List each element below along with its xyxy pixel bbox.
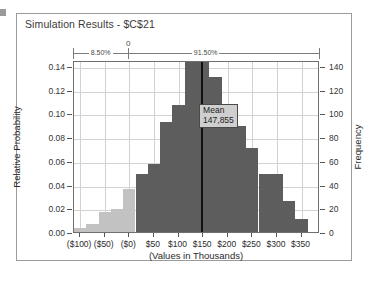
histogram-bar[interactable] (259, 174, 271, 232)
y-axis-tick-mark-left (67, 114, 72, 115)
y-axis-tick-mark-left (67, 67, 72, 68)
x-axis-tick-label: ($0) (121, 239, 136, 249)
y-axis-tick-label-left: 0.02 (48, 205, 65, 213)
y-axis-tick-label-left: 0.06 (48, 158, 65, 166)
y-axis-tick-label-right: 20 (329, 205, 338, 213)
histogram-bar[interactable] (234, 126, 246, 232)
x-axis-tick-mark (202, 233, 203, 237)
y-axis-tick-mark-right (320, 233, 325, 234)
histogram-plot-area[interactable]: Mean147,855 (73, 61, 319, 233)
y-axis-tick-mark-right (320, 67, 325, 68)
x-axis-tick-label: $350 (291, 239, 310, 249)
y-axis-frequency: Frequency 020406080100120140 (319, 61, 353, 233)
y-axis-tick-label-right: 60 (329, 158, 338, 166)
y-axis-tick-mark-right (320, 162, 325, 163)
certainty-grabber-zero[interactable] (128, 48, 129, 59)
histogram-bar[interactable] (295, 219, 307, 232)
x-axis-tick-mark (104, 233, 105, 237)
y-axis-tick-mark-right (320, 91, 325, 92)
y-axis-tick-label-left: 0.12 (48, 87, 65, 95)
y-axis-tick-label-left: 0.14 (48, 63, 65, 71)
y-axis-tick-mark-left (67, 233, 72, 234)
y-axis-label-left: Relative Probability (11, 106, 22, 187)
histogram-bar[interactable] (209, 77, 221, 232)
mean-value-callout[interactable]: Mean147,855 (199, 104, 238, 128)
x-axis-tick-label: ($100) (67, 239, 92, 249)
y-axis-tick-mark-left (67, 162, 72, 163)
certainty-left-percent-label: 8.50% (89, 48, 113, 58)
histogram-bar[interactable] (86, 224, 98, 232)
grid-line-vertical (80, 62, 81, 232)
y-axis-tick-label-right: 80 (329, 134, 338, 142)
x-axis-tick-label: $250 (242, 239, 261, 249)
x-axis-tick-mark (276, 233, 277, 237)
scan-artifact (0, 9, 6, 16)
y-axis-tick-label-right: 0 (329, 229, 334, 237)
simulation-results-chart-window: Simulation Results - $C$21 08.50%91.50% … (16, 13, 352, 261)
x-axis-tick-mark (301, 233, 302, 237)
histogram-bar[interactable] (172, 105, 184, 232)
y-axis-label-right: Frequency (352, 125, 363, 170)
histogram-bar[interactable] (111, 209, 123, 232)
histogram-bar[interactable] (148, 164, 160, 232)
histogram-bar[interactable] (283, 201, 295, 232)
histogram-bar[interactable] (74, 228, 86, 232)
x-axis-tick-mark (227, 233, 228, 237)
y-axis-tick-mark-right (320, 186, 325, 187)
x-axis-tick-mark (79, 233, 80, 237)
screenshot-root: Simulation Results - $C$21 08.50%91.50% … (0, 0, 370, 285)
y-axis-relative-probability: Relative Probability 0.000.020.040.060.0… (17, 61, 73, 233)
x-axis-tick-label: ($50) (94, 239, 114, 249)
y-axis-tick-mark-left (67, 138, 72, 139)
histogram-bar[interactable] (160, 122, 172, 232)
x-axis-tick-mark (178, 233, 179, 237)
mean-line[interactable] (201, 62, 203, 232)
histogram-bar[interactable] (246, 148, 258, 232)
x-axis-tick-label: $200 (217, 239, 236, 249)
y-axis-tick-mark-left (67, 91, 72, 92)
certainty-right-percent-label: 91.50% (192, 48, 220, 58)
certainty-zero-label: 0 (126, 39, 130, 48)
y-axis-tick-label-right: 120 (329, 87, 343, 95)
x-axis-tick-mark (251, 233, 252, 237)
y-axis-tick-mark-right (320, 114, 325, 115)
y-axis-tick-label-left: 0.00 (48, 229, 65, 237)
histogram-bar[interactable] (136, 174, 148, 232)
y-axis-tick-label-left: 0.08 (48, 134, 65, 142)
histogram-bar[interactable] (99, 212, 111, 232)
mean-callout-value: 147,855 (203, 116, 234, 126)
grid-line-vertical (105, 62, 106, 232)
x-axis-tick-label: $300 (266, 239, 285, 249)
y-axis-tick-label-right: 100 (329, 110, 343, 118)
x-axis-tick-mark (153, 233, 154, 237)
histogram-bar[interactable] (197, 61, 209, 232)
y-axis-tick-mark-left (67, 209, 72, 210)
certainty-endpoint[interactable] (73, 48, 74, 59)
y-axis-tick-mark-right (320, 209, 325, 210)
x-axis-tick-label: $50 (146, 239, 160, 249)
histogram-bar[interactable] (185, 61, 197, 232)
certainty-endpoint[interactable] (319, 48, 320, 59)
y-axis-tick-label-left: 0.10 (48, 110, 65, 118)
chart-title: Simulation Results - $C$21 (25, 18, 155, 30)
x-axis-tick-label: $100 (168, 239, 187, 249)
y-axis-tick-label-right: 140 (329, 63, 343, 71)
x-axis-tick-label: $150 (193, 239, 212, 249)
y-axis-tick-mark-left (67, 186, 72, 187)
histogram-bar[interactable] (271, 174, 283, 232)
x-axis-tick-mark (128, 233, 129, 237)
x-axis-label: (Values in Thousands) (73, 250, 319, 261)
certainty-band[interactable]: 08.50%91.50% (17, 40, 353, 60)
histogram-bar[interactable] (123, 189, 135, 232)
grid-line-vertical (302, 62, 303, 232)
y-axis-tick-mark-right (320, 138, 325, 139)
y-axis-tick-label-left: 0.04 (48, 182, 65, 190)
y-axis-tick-label-right: 40 (329, 182, 338, 190)
